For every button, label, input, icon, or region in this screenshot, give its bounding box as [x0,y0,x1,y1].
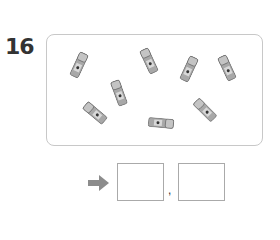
picture-frame [46,34,263,146]
answer-box-1[interactable] [117,163,164,201]
answer-box-2[interactable] [178,163,225,201]
glue-stick-icon [148,117,175,129]
right-arrow-icon [88,175,110,191]
separator-comma: , [168,183,171,197]
question-number: 16 [5,34,34,59]
